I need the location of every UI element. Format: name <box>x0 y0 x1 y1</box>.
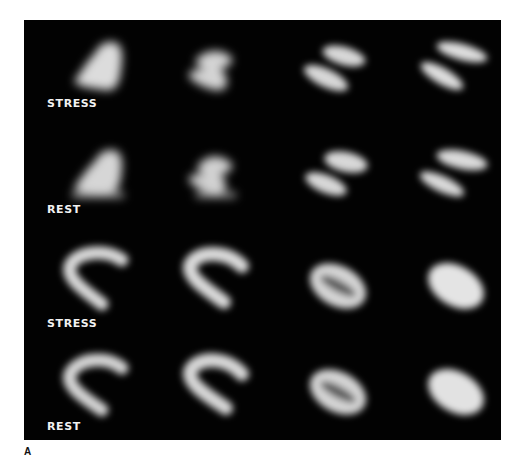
slice-r1-c2 <box>189 51 232 90</box>
slice-r4-c2 <box>190 360 242 408</box>
slice-r1-c3 <box>300 42 367 97</box>
slice-r3-c3 <box>302 254 374 317</box>
slice-grid <box>24 20 501 440</box>
slice-r2-c4 <box>417 146 489 202</box>
slice-r2-c2 <box>189 156 236 198</box>
slice-r4-c3 <box>302 360 374 423</box>
panel-label: A <box>24 446 31 457</box>
slice-r1-c1 <box>74 42 122 90</box>
slice-r4-c1 <box>69 360 122 410</box>
slice-r3-c4 <box>420 254 492 319</box>
row-label-rest-2: REST <box>47 420 81 433</box>
row-label-rest-1: REST <box>47 203 81 216</box>
slice-r2-c1 <box>72 150 124 198</box>
slice-r2-c3 <box>302 148 369 201</box>
slice-r4-c4 <box>420 360 492 425</box>
spect-image-panel: STRESS REST STRESS REST <box>24 20 501 440</box>
slice-r3-c2 <box>190 254 242 302</box>
slice-r3-c1 <box>69 253 122 304</box>
row-label-stress-1: STRESS <box>47 97 97 110</box>
row-label-stress-2: STRESS <box>47 317 97 330</box>
slice-r1-c4 <box>417 38 489 95</box>
